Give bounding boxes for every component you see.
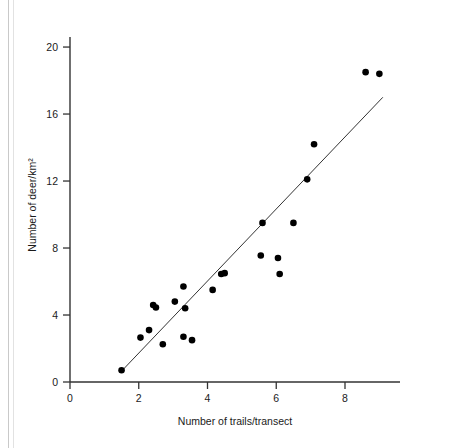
data-points-group	[118, 69, 382, 374]
data-point	[172, 298, 179, 305]
data-point	[153, 304, 160, 311]
data-point	[160, 341, 167, 348]
data-point	[275, 255, 282, 262]
data-point	[118, 367, 125, 374]
y-axis-title: Number of deer/km²	[26, 158, 38, 252]
x-tick-label: 2	[136, 392, 142, 404]
x-axis-ticks: 02468	[67, 382, 348, 404]
data-point	[276, 271, 283, 278]
axes-group	[70, 37, 400, 382]
data-point	[290, 220, 297, 227]
trendline-group	[122, 97, 383, 371]
data-point	[376, 71, 383, 78]
data-point	[209, 287, 216, 294]
y-tick-label: 4	[52, 309, 58, 321]
x-tick-label: 6	[273, 392, 279, 404]
y-tick-label: 20	[46, 41, 58, 53]
scatter-plot: 048121620 02468 Number of trails/transec…	[0, 0, 466, 448]
data-point	[257, 252, 264, 259]
data-point	[137, 334, 144, 341]
x-axis-title: Number of trails/transect	[178, 415, 292, 427]
y-tick-label: 0	[52, 376, 58, 388]
regression-trendline	[122, 97, 383, 371]
data-point	[189, 337, 196, 344]
data-point	[259, 220, 266, 227]
data-point	[311, 141, 318, 148]
x-tick-label: 4	[205, 392, 211, 404]
data-point	[182, 305, 189, 312]
data-point	[146, 327, 153, 334]
data-point	[180, 283, 187, 290]
y-tick-label: 16	[46, 108, 58, 120]
figure-root: 048121620 02468 Number of trails/transec…	[0, 0, 466, 448]
y-tick-label: 8	[52, 242, 58, 254]
data-point	[221, 270, 228, 277]
data-point	[304, 176, 311, 183]
y-tick-label: 12	[46, 175, 58, 187]
x-tick-label: 0	[67, 392, 73, 404]
data-point	[362, 69, 369, 76]
y-axis-ticks: 048121620	[46, 41, 70, 388]
data-point	[180, 333, 187, 340]
x-tick-label: 8	[342, 392, 348, 404]
